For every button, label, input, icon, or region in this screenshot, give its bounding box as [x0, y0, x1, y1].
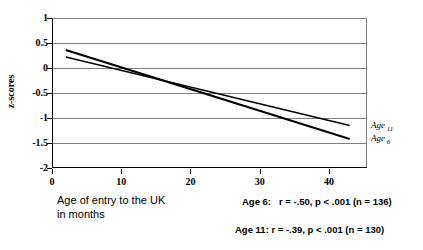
annotation-age11-stats: Age 11: r = -.39, p < .001 (n = 130)	[235, 224, 384, 235]
x-tick-mark	[121, 169, 122, 174]
series-label-subscript: 11	[385, 124, 393, 132]
x-tick-mark	[52, 169, 53, 174]
series-end-label-age-11: Age 11	[371, 120, 393, 133]
series-label-subscript: 6	[385, 138, 390, 146]
x-tick-label: 0	[37, 176, 67, 187]
series-line-age-6	[66, 50, 350, 139]
x-tick-label: 10	[106, 176, 136, 187]
y-tick-label: -1.5	[20, 138, 48, 148]
y-tick-label: 0.5	[20, 38, 48, 48]
series-label-text: Age	[371, 133, 385, 143]
plot-area	[52, 18, 367, 168]
y-tick-label: -0.5	[20, 88, 48, 98]
series-lines	[52, 18, 367, 168]
y-tick-label: -1	[20, 113, 48, 123]
series-label-text: Age	[371, 120, 385, 130]
y-tick-label: 0	[20, 63, 48, 73]
x-tick-mark	[329, 169, 330, 174]
y-axis-tick-labels: 10.50-0.5-1-1.5-2	[18, 0, 48, 250]
y-axis-title: z-scores	[5, 56, 16, 128]
y-tick-label: 1	[20, 13, 48, 23]
series-end-label-age-6: Age 6	[371, 133, 390, 146]
y-tick-label: -2	[20, 163, 48, 173]
x-tick-mark	[260, 169, 261, 174]
x-axis-title: Age of entry to the UK in months	[57, 193, 165, 221]
annotation-age6-stats: Age 6: r = -.50, p < .001 (n = 136)	[242, 196, 392, 207]
x-axis-title-line2: in months	[57, 207, 165, 221]
chart-figure: z-scores 10.50-0.5-1-1.5-2 010203040 Age…	[0, 0, 423, 250]
x-tick-label: 20	[175, 176, 205, 187]
x-tick-label: 40	[314, 176, 344, 187]
x-tick-label: 30	[245, 176, 275, 187]
x-axis-title-line1: Age of entry to the UK	[57, 193, 165, 207]
x-tick-mark	[190, 169, 191, 174]
series-line-age-11	[66, 57, 350, 126]
